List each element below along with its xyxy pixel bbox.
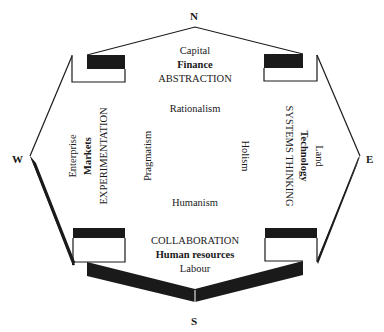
philosophy-north: Rationalism <box>170 102 221 116</box>
south-quadrant: COLLABORATION Human resources Labour <box>151 234 239 276</box>
north-domain: Finance <box>158 58 232 72</box>
compass-east-label: E <box>366 154 373 165</box>
west-approach: EXPERIMENTATION <box>97 107 111 204</box>
compass-south-label: S <box>191 316 197 327</box>
north-west-bar <box>87 55 125 69</box>
north-resource: Capital <box>158 44 232 58</box>
north-approach: ABSTRACTION <box>158 72 232 86</box>
south-resource: Labour <box>151 262 239 276</box>
philosophy-west: Pragmatism <box>141 131 155 181</box>
west-resource: Enterprise <box>66 134 80 177</box>
compass-north-label: N <box>190 11 198 22</box>
north-east-edge <box>317 55 360 156</box>
north-quadrant: Capital Finance ABSTRACTION <box>158 44 232 86</box>
philosophy-east: Holism <box>238 141 252 172</box>
south-east-bar <box>265 228 317 238</box>
west-domain: Markets <box>81 137 95 175</box>
philosophy-south: Humanism <box>172 196 218 210</box>
south-west-bracket <box>73 238 125 262</box>
east-resource: Land <box>312 145 326 167</box>
south-approach: COLLABORATION <box>151 234 239 248</box>
east-domain: Technology <box>297 131 311 182</box>
south-domain: Human resources <box>151 248 239 262</box>
east-approach: SYSTEMS THINKING <box>282 105 296 206</box>
compass-west-label: W <box>12 154 23 165</box>
south-west-bar <box>73 228 125 238</box>
north-east-bar <box>264 54 303 68</box>
south-east-bracket <box>265 238 303 261</box>
